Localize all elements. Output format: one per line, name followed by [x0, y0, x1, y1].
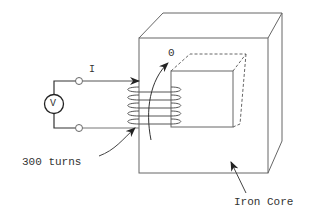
diagram-canvas — [0, 0, 328, 224]
core-label: Iron Core — [234, 197, 293, 208]
core-side-face — [268, 13, 282, 173]
voltmeter-label: V — [50, 99, 56, 109]
coil — [128, 87, 181, 124]
turns-label: 300 turns — [22, 157, 81, 168]
terminal-bottom — [76, 125, 83, 132]
flux-label: 0 — [168, 48, 175, 59]
core-leader — [231, 162, 246, 193]
flux-arrow — [149, 63, 168, 140]
window-top-dashed — [171, 54, 246, 71]
turns-leader — [99, 128, 135, 156]
iron-core-diagram: I 0 V 300 turns Iron Core — [0, 0, 328, 224]
core-front-face — [139, 38, 268, 173]
iron-core — [139, 13, 282, 173]
terminal-top — [76, 78, 83, 85]
current-label: I — [89, 65, 95, 75]
core-top-face — [139, 13, 282, 38]
window-side-dashed — [233, 54, 246, 127]
